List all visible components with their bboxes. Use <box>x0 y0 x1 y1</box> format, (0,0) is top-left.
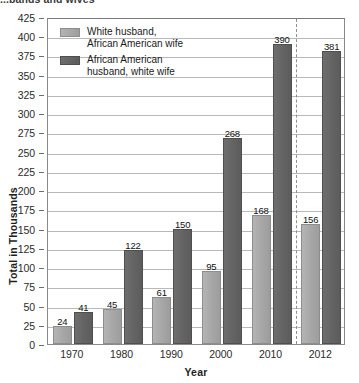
gridline <box>48 154 344 155</box>
bar-value-label: 168 <box>253 205 268 216</box>
bar-value-label: 45 <box>107 299 117 310</box>
y-tick-mark <box>39 268 44 269</box>
bar-2012-series2 <box>322 51 341 344</box>
legend-label: White husband,African American wife <box>87 26 183 49</box>
legend-label: African Americanhusband, white wife <box>87 54 175 77</box>
bar-2012-series1 <box>301 224 320 344</box>
y-tick-mark <box>39 153 44 154</box>
bar-1980-series1 <box>103 309 122 344</box>
y-tick-mark <box>39 326 44 327</box>
y-tick-label: 75 <box>24 281 35 293</box>
bar-value-label: 390 <box>274 34 289 45</box>
gridline <box>48 96 344 97</box>
y-tick-mark <box>39 76 44 77</box>
bar-1990-series2 <box>173 229 192 344</box>
x-axis-labels: 197019801990200020102012 <box>47 348 345 364</box>
y-tick-mark <box>39 114 44 115</box>
legend-item-1: White husband,African American wife <box>60 26 235 49</box>
gridline <box>48 288 344 289</box>
dashed-divider-line <box>296 19 297 344</box>
y-tick-label: 250 <box>18 147 35 159</box>
x-tick-label-1970: 1970 <box>60 348 83 360</box>
y-tick-label: 375 <box>18 50 35 62</box>
y-axis-labels: 0255075100125150175200225250275300325350… <box>0 18 44 345</box>
bar-1970-series1 <box>53 326 72 344</box>
y-tick-label: 300 <box>18 108 35 120</box>
gridline <box>48 269 344 270</box>
x-tick-label-2012: 2012 <box>309 348 332 360</box>
bar-2000-series1 <box>202 271 221 344</box>
y-tick-mark <box>39 56 44 57</box>
bar-value-label: 381 <box>324 41 339 52</box>
legend-swatch-icon <box>60 56 80 65</box>
y-tick-label: 0 <box>29 339 35 351</box>
chart-legend: White husband,African American wifeAfric… <box>60 26 235 82</box>
y-tick-mark <box>39 287 44 288</box>
bar-2010-series1 <box>252 215 271 344</box>
y-tick-label: 275 <box>18 127 35 139</box>
bar-value-label: 41 <box>78 302 88 313</box>
y-tick-label: 25 <box>24 320 35 332</box>
y-tick-label: 50 <box>24 301 35 313</box>
bar-1970-series2 <box>74 312 93 344</box>
gridline <box>48 231 344 232</box>
bar-value-label: 122 <box>125 240 140 251</box>
gridline <box>48 308 344 309</box>
bar-1990-series1 <box>152 297 171 344</box>
y-tick-mark <box>39 37 44 38</box>
y-tick-mark <box>39 133 44 134</box>
bar-value-label: 95 <box>206 261 216 272</box>
y-tick-mark <box>39 18 44 19</box>
bar-value-label: 268 <box>225 128 240 139</box>
gridline <box>48 211 344 212</box>
y-tick-mark <box>39 95 44 96</box>
y-tick-label: 150 <box>18 224 35 236</box>
gridline <box>48 192 344 193</box>
y-tick-label: 425 <box>18 12 35 24</box>
y-tick-label: 200 <box>18 185 35 197</box>
legend-item-2: African Americanhusband, white wife <box>60 54 235 77</box>
gridline <box>48 173 344 174</box>
y-tick-mark <box>39 210 44 211</box>
y-tick-mark <box>39 172 44 173</box>
page-title: ...bands and wives <box>0 0 200 7</box>
x-tick-label-1990: 1990 <box>160 348 183 360</box>
y-tick-mark <box>39 345 44 346</box>
y-tick-mark <box>39 249 44 250</box>
bar-2000-series2 <box>223 138 242 344</box>
bar-value-label: 61 <box>157 287 167 298</box>
bar-1980-series2 <box>124 250 143 344</box>
x-tick-label-1980: 1980 <box>110 348 133 360</box>
y-tick-label: 400 <box>18 31 35 43</box>
x-axis-title: Year <box>47 366 345 378</box>
y-tick-label: 325 <box>18 89 35 101</box>
y-tick-mark <box>39 191 44 192</box>
gridline <box>48 250 344 251</box>
x-tick-label-2010: 2010 <box>259 348 282 360</box>
gridline <box>48 115 344 116</box>
y-tick-mark <box>39 307 44 308</box>
bar-value-label: 24 <box>57 316 67 327</box>
gridline <box>48 134 344 135</box>
y-tick-label: 225 <box>18 166 35 178</box>
bar-2010-series2 <box>273 44 292 344</box>
y-tick-label: 125 <box>18 243 35 255</box>
y-tick-mark <box>39 230 44 231</box>
y-tick-label: 350 <box>18 70 35 82</box>
y-tick-label: 175 <box>18 204 35 216</box>
bar-value-label: 156 <box>303 214 318 225</box>
y-tick-label: 100 <box>18 262 35 274</box>
x-tick-label-2000: 2000 <box>209 348 232 360</box>
legend-swatch-icon <box>60 28 80 37</box>
bar-value-label: 150 <box>175 219 190 230</box>
